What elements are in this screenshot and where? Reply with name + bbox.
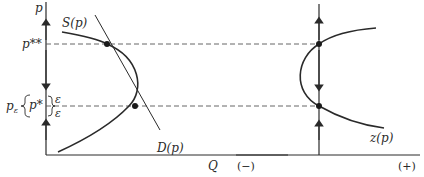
x-positive-label: (+) [398, 161, 416, 172]
epsilon-lower-label: ε [55, 108, 61, 119]
zero-point-low [316, 103, 322, 109]
excess-demand-label: z(p) [370, 132, 393, 144]
excess-demand-curve [300, 28, 384, 128]
equilibrium-point-high [104, 41, 110, 47]
epsilon-upper-label: ε [55, 94, 61, 105]
supply-label: S(p) [62, 17, 87, 29]
p-epsilon-base: p [6, 99, 14, 113]
price-high-label: p** [22, 38, 42, 50]
demand-label: D(p) [157, 142, 184, 154]
equilibrium-point-low [132, 103, 138, 109]
p-epsilon-sub: ε [14, 106, 18, 115]
x-axis-label: Q [208, 160, 218, 172]
demand-curve [95, 15, 160, 130]
supply-curve [58, 32, 138, 152]
p-epsilon-label: pε [6, 100, 18, 115]
price-low-label: p* [29, 99, 43, 111]
equilibrium-dashed-lines [46, 44, 319, 106]
y-axis-label: p [35, 2, 43, 14]
x-negative-label: (−) [237, 161, 255, 172]
zero-point-high [316, 41, 322, 47]
